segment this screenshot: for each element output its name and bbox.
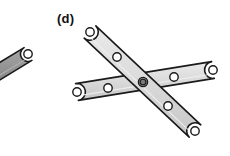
- shallow-link-lower-left-to-right-hole-0: [73, 88, 81, 96]
- shallow-link-lower-left-to-right-hole-1: [104, 84, 112, 92]
- shallow-link-lower-left-to-right-hole-3: [170, 73, 178, 81]
- center-pivot-joint: [138, 77, 147, 86]
- diagonal-link-upper-left-to-lower-right-hole-3: [164, 102, 172, 110]
- partial-link-left-edge-hole-0: [24, 50, 32, 58]
- diagonal-link-upper-left-to-lower-right-hole-4: [191, 127, 199, 135]
- panel-label-d: (d): [57, 12, 74, 25]
- diagonal-link-upper-left-to-lower-right-hole-0: [86, 28, 94, 36]
- linkage-diagram: [0, 0, 230, 156]
- shallow-link-lower-left-to-right-hole-4: [209, 66, 217, 74]
- figure-panel-d: (d): [0, 0, 230, 156]
- diagonal-link-upper-left-to-lower-right-hole-1: [113, 53, 121, 61]
- center-pivot-inner: [140, 79, 146, 85]
